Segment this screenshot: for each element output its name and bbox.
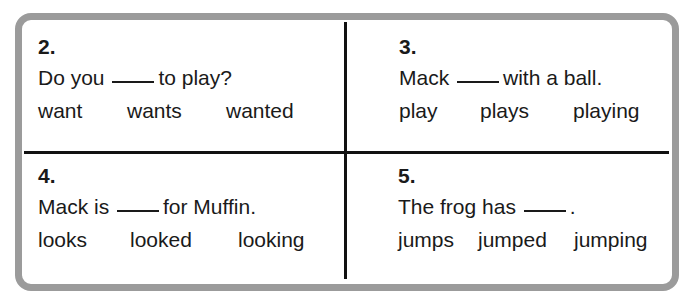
choice-option[interactable]: looks <box>38 228 130 252</box>
choice-option[interactable]: wanted <box>226 99 294 123</box>
choice-option[interactable]: play <box>399 99 480 123</box>
sentence-end: . <box>570 195 576 218</box>
choice-option[interactable]: looking <box>238 228 305 252</box>
question-4: 4. Mack is for Muffin. lookslookedlookin… <box>38 164 305 252</box>
answer-choices: lookslookedlooking <box>38 228 305 252</box>
sentence-end: to play? <box>158 66 232 89</box>
answer-choices: playplaysplaying <box>399 99 640 123</box>
question-number: 3. <box>399 35 640 59</box>
choice-option[interactable]: plays <box>480 99 573 123</box>
question-number: 2. <box>38 35 294 59</box>
question-sentence: Do you to play? <box>38 66 294 90</box>
sentence-start: Mack is <box>38 195 109 218</box>
sentence-end: with a ball. <box>503 66 602 89</box>
question-sentence: Mack with a ball. <box>399 66 640 90</box>
sentence-start: Do you <box>38 66 105 89</box>
answer-blank[interactable] <box>524 210 566 212</box>
sentence-start: Mack <box>399 66 449 89</box>
answer-choices: jumpsjumpedjumping <box>398 228 648 252</box>
choice-option[interactable]: wants <box>127 99 226 123</box>
question-number: 4. <box>38 164 305 188</box>
answer-blank[interactable] <box>457 81 499 83</box>
question-2: 2. Do you to play? wantwantswanted <box>38 35 294 123</box>
answer-choices: wantwantswanted <box>38 99 294 123</box>
choice-option[interactable]: looked <box>130 228 238 252</box>
sentence-end: for Muffin. <box>163 195 256 218</box>
question-number: 5. <box>398 164 648 188</box>
answer-blank[interactable] <box>117 210 159 212</box>
horizontal-divider <box>24 151 669 154</box>
choice-option[interactable]: jumps <box>398 228 478 252</box>
question-sentence: The frog has . <box>398 195 648 219</box>
answer-blank[interactable] <box>112 81 154 83</box>
sentence-start: The frog has <box>398 195 516 218</box>
choice-option[interactable]: want <box>38 99 127 123</box>
question-5: 5. The frog has . jumpsjumpedjumping <box>398 164 648 252</box>
choice-option[interactable]: playing <box>573 99 640 123</box>
choice-option[interactable]: jumped <box>478 228 574 252</box>
choice-option[interactable]: jumping <box>574 228 648 252</box>
question-sentence: Mack is for Muffin. <box>38 195 305 219</box>
question-3: 3. Mack with a ball. playplaysplaying <box>399 35 640 123</box>
